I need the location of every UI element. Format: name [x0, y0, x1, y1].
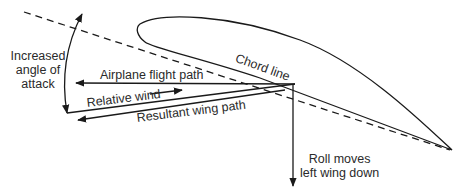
label-line: left wing down: [300, 166, 379, 180]
roll-label: Roll moves left wing down: [300, 152, 379, 180]
airplane-flight-path-label: Airplane flight path: [100, 69, 204, 82]
label-line: Roll moves: [300, 152, 379, 166]
label-line: Increased: [8, 49, 68, 63]
chord-line: [24, 12, 450, 150]
label-line: attack: [8, 77, 68, 91]
airfoil-diagram: Increased angle of attack Chord line Air…: [0, 0, 475, 195]
airplane-flight-path-arrow: [76, 83, 295, 84]
label-line: angle of: [8, 63, 68, 77]
angle-of-attack-label: Increased angle of attack: [8, 49, 68, 91]
